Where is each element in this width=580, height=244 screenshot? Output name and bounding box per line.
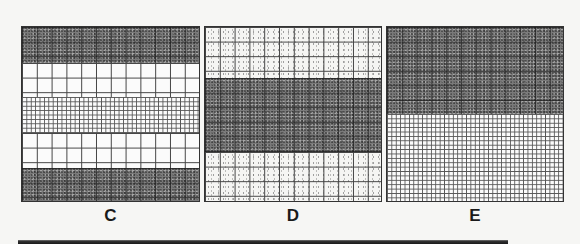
panel-c <box>21 26 200 202</box>
panel-d-label: D <box>204 206 382 226</box>
panel-d-dark-band-middle <box>205 78 381 152</box>
panel-d <box>204 26 382 202</box>
panel-c-white-band-upper <box>22 63 199 97</box>
panel-c-label: C <box>21 206 200 226</box>
bottom-divider-rule <box>18 240 508 244</box>
panel-d-dotted-band-bottom <box>205 152 381 202</box>
panel-c-dark-band-bottom <box>22 168 199 202</box>
panel-c-dark-band-top <box>22 27 199 63</box>
panel-c-fine-mesh-band <box>22 97 199 133</box>
panel-d-dotted-band-top <box>205 27 381 78</box>
panel-e-label: E <box>386 206 564 226</box>
panel-e-fine-mesh-bottom <box>387 114 563 202</box>
panel-e-dark-band-top <box>387 27 563 114</box>
panel-c-white-band-lower <box>22 133 199 168</box>
panel-e <box>386 26 564 202</box>
